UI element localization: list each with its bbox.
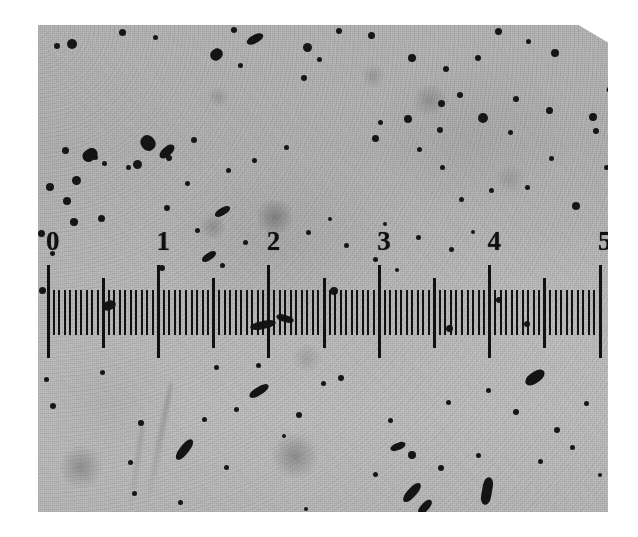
particle-dot — [306, 230, 311, 235]
scale-tick-minor — [229, 290, 231, 335]
particle-rod — [208, 46, 225, 63]
particle-rod — [401, 481, 424, 505]
particle-dot — [368, 32, 375, 39]
scale-tick-minor — [141, 290, 143, 335]
particle-dot — [459, 197, 464, 202]
particle-dot — [284, 145, 289, 150]
scale-tick-minor — [135, 290, 137, 335]
scale-tick-minor — [560, 290, 562, 335]
particle-rod — [275, 313, 294, 325]
scale-tick-minor — [108, 290, 110, 335]
particle-dot — [438, 100, 445, 107]
scale-tick-minor — [351, 290, 353, 335]
scale-tick-medium — [102, 278, 105, 348]
scale-tick-minor — [86, 290, 88, 335]
scale-tick-minor — [146, 290, 148, 335]
particle-dot — [317, 57, 322, 62]
particle-dot — [126, 165, 131, 170]
scale-tick-minor — [113, 290, 115, 335]
particle-dot — [408, 451, 416, 459]
scale-tick-minor — [478, 290, 480, 335]
particle-rod — [416, 498, 434, 512]
scale-tick-minor — [97, 290, 99, 335]
defocused-blob — [410, 85, 450, 115]
particle-dot — [589, 113, 597, 121]
scale-tick-major — [488, 265, 491, 358]
particle-dot — [438, 465, 444, 471]
particle-dot — [231, 27, 237, 33]
particle-rod — [200, 249, 217, 264]
scale-tick-minor — [130, 290, 132, 335]
scale-tick-minor — [279, 290, 281, 335]
scale-tick-minor — [417, 290, 419, 335]
particle-dot — [476, 453, 481, 458]
scale-tick-minor — [179, 290, 181, 335]
scale-tick-minor — [185, 290, 187, 335]
defocused-blob — [270, 433, 320, 479]
scale-tick-minor — [389, 290, 391, 335]
scale-tick-minor — [312, 290, 314, 335]
scale-tick-minor — [64, 290, 66, 335]
particle-dot — [38, 230, 45, 237]
particle-dot — [495, 28, 502, 35]
scale-label-5: 5 — [598, 228, 608, 255]
scale-tick-minor — [571, 290, 573, 335]
particle-rod — [605, 80, 608, 95]
particle-dot — [408, 54, 416, 62]
particle-dot — [525, 185, 530, 190]
scale-tick-minor — [174, 290, 176, 335]
scale-tick-minor — [439, 290, 441, 335]
particle-dot — [119, 29, 126, 36]
film-grain-texture-secondary — [38, 25, 608, 512]
particle-dot — [593, 128, 599, 134]
scale-tick-minor — [367, 290, 369, 335]
scale-tick-minor — [505, 290, 507, 335]
particle-dot — [67, 39, 77, 49]
particle-dot — [138, 420, 144, 426]
particle-dot — [478, 113, 488, 123]
particle-dot — [344, 243, 349, 248]
scale-label-0: 0 — [46, 228, 60, 255]
scale-tick-minor — [196, 290, 198, 335]
particle-dot — [128, 460, 133, 465]
particle-dot — [100, 370, 105, 375]
particle-dot — [301, 75, 307, 81]
particle-dot — [554, 427, 560, 433]
photomicrograph-plate: 012345 — [38, 25, 608, 512]
scale-tick-minor — [246, 290, 248, 335]
particle-dot — [214, 365, 219, 370]
particle-rod — [523, 367, 547, 389]
particle-dot — [164, 205, 170, 211]
emulsion-streak — [144, 381, 175, 510]
particle-dot — [549, 156, 554, 161]
particle-dot — [54, 43, 60, 49]
particle-dot — [63, 197, 71, 205]
scale-tick-minor — [522, 290, 524, 335]
scale-tick-medium — [543, 278, 546, 348]
scale-tick-minor — [406, 290, 408, 335]
particle-dot — [296, 412, 302, 418]
scale-tick-minor — [168, 290, 170, 335]
scale-tick-minor — [75, 290, 77, 335]
scale-tick-minor — [494, 290, 496, 335]
scale-tick-minor — [582, 290, 584, 335]
particle-dot — [132, 491, 137, 496]
particle-dot — [496, 297, 502, 303]
scale-tick-minor — [356, 290, 358, 335]
particle-rod — [480, 476, 495, 505]
scale-tick-minor — [58, 290, 60, 335]
particle-dot — [598, 473, 602, 477]
scale-tick-minor — [566, 290, 568, 335]
particle-dot — [373, 257, 378, 262]
scale-tick-major — [267, 265, 270, 358]
scale-tick-minor — [91, 290, 93, 335]
scale-label-4: 4 — [488, 228, 502, 255]
scale-tick-minor — [555, 290, 557, 335]
scale-tick-minor — [455, 290, 457, 335]
scale-tick-minor — [301, 290, 303, 335]
particle-rod — [248, 382, 271, 400]
particle-dot — [471, 230, 475, 234]
scale-tick-minor — [218, 290, 220, 335]
scale-tick-minor — [163, 290, 165, 335]
scale-tick-minor — [334, 290, 336, 335]
